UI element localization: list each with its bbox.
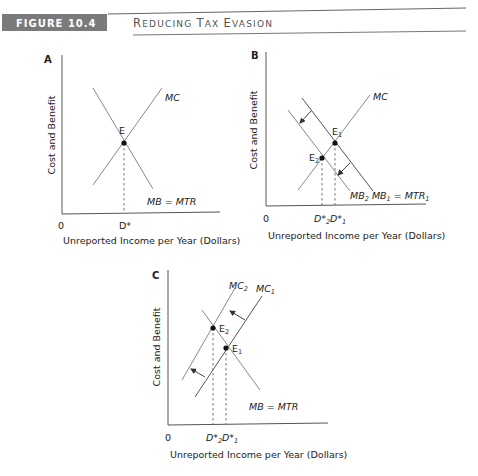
panel-b: B Cost and Benefit MC E1 E2 MB2 MB1 = MT… [248, 50, 445, 241]
figure-label: FIGURE 10.4 [16, 18, 97, 29]
panel-c-mc1-label: MC1 [256, 283, 275, 296]
panel-b-xtick-d2: D*2 [314, 213, 330, 226]
header-top-rule [108, 8, 466, 14]
panel-b-origin: 0 [263, 213, 269, 224]
panel-a-y-label: Cost and Benefit [46, 95, 57, 174]
panel-a-x-label: Unreported Income per Year (Dollars) [63, 235, 240, 246]
panel-b-mb1-curve [302, 98, 373, 191]
panel-b-mb-labels: MB2 MB1 = MTR1 [350, 190, 430, 203]
panel-b-e2-label: E2 [309, 152, 319, 165]
panel-a-x-axis [62, 212, 220, 214]
panel-c-origin: 0 [165, 432, 171, 443]
figure-canvas: FIGURE 10.4 REDUCING TAX EVASION A Cost … [0, 0, 478, 476]
panel-b-equilibrium-e1 [332, 140, 337, 145]
panel-b-xtick-d1: D*1 [330, 213, 346, 226]
panel-b-equilibrium-e2 [319, 155, 324, 160]
panel-b-shift-arrow-upper [300, 111, 311, 123]
panel-c-xtick-d2: D*2 [206, 432, 222, 445]
panel-a-mb-label: MB = MTR [147, 196, 196, 207]
panel-c-equilibrium-e1 [223, 345, 228, 350]
panel-a-letter: A [44, 54, 52, 65]
panel-a-mc-label: MC [165, 92, 180, 103]
panel-c-shift-arrow-lower [191, 369, 205, 377]
figure-header: FIGURE 10.4 REDUCING TAX EVASION [2, 8, 466, 35]
panel-c-mb-curve [202, 310, 260, 390]
header-bottom-rule [133, 31, 466, 35]
panel-c-x-label: Unreported Income per Year (Dollars) [170, 449, 347, 460]
panel-b-x-label: Unreported Income per Year (Dollars) [268, 230, 445, 241]
panel-c-mb-label: MB = MTR [249, 401, 298, 412]
panel-b-shift-arrow-lower [338, 163, 350, 175]
panel-b-mc-label: MC [373, 91, 388, 102]
panel-a-mb-curve [93, 88, 153, 189]
panel-b-mb2-curve [288, 110, 350, 191]
panel-a: A Cost and Benefit MC MB = MTR E 0 D* Un… [44, 54, 240, 246]
panel-a-origin: 0 [58, 220, 64, 231]
panel-c-xtick-d1: D*1 [222, 432, 238, 445]
panel-c-shift-arrow-upper [230, 311, 245, 320]
panel-c-letter: C [152, 270, 159, 281]
panel-a-mc-curve [93, 88, 162, 185]
panel-c-mc2-label: MC2 [229, 280, 248, 293]
panel-c-equilibrium-e2 [210, 325, 215, 330]
panel-c-x-axis [168, 423, 328, 425]
panel-b-letter: B [251, 50, 259, 61]
panel-b-e1-label: E1 [332, 126, 342, 139]
panel-c: C Cost and Benefit MC2 MC1 E2 E1 MB = MT… [151, 270, 347, 460]
panel-a-point-label: E [119, 125, 125, 136]
panel-a-xtick: D* [119, 220, 131, 231]
panel-c-y-label: Cost and Benefit [151, 307, 162, 386]
panel-b-y-label: Cost and Benefit [248, 90, 259, 169]
panel-a-equilibrium-point [121, 140, 126, 145]
figure-title: REDUCING TAX EVASION [133, 16, 273, 30]
panel-c-e2-label: E2 [219, 323, 229, 336]
panel-b-x-axis [266, 204, 426, 206]
